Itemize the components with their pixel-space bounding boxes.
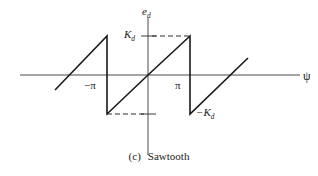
caption-text: Sawtooth xyxy=(148,150,190,162)
negative-amplitude-label: −Kd xyxy=(196,107,215,121)
x-tick-label-positive-pi: π xyxy=(175,80,181,91)
positive-amplitude-label: Kd xyxy=(124,29,135,43)
y-axis-label: ed xyxy=(142,6,151,20)
sawtooth-figure: ed ψ Kd −Kd −π π (c)Sawtooth xyxy=(0,0,318,176)
x-axis-label: ψ xyxy=(303,70,311,82)
figure-caption: (c)Sawtooth xyxy=(0,150,318,162)
x-tick-label-negative-pi: −π xyxy=(84,80,96,91)
caption-tag: (c) xyxy=(129,150,141,162)
